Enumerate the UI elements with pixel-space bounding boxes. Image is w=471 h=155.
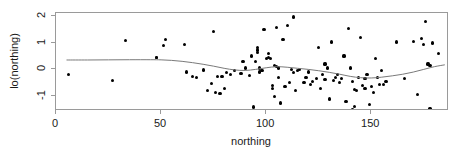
x-axis-tick <box>265 110 266 114</box>
x-axis-tick <box>160 110 161 114</box>
scatter-plot-figure: lo(northing) -1012 northing 050100150 <box>0 0 471 155</box>
x-axis-tick-label: 0 <box>52 117 58 129</box>
x-axis-tick <box>55 110 56 114</box>
x-axis-tick-label: 100 <box>256 117 274 129</box>
y-axis-label: lo(northing) <box>8 33 20 89</box>
x-axis-tick <box>370 110 371 114</box>
y-axis-tick-label: 2 <box>35 12 47 18</box>
smoother-curve-layer <box>56 13 447 109</box>
y-axis-tick-label: 0 <box>35 65 47 71</box>
x-axis-tick-label: 50 <box>154 117 166 129</box>
x-axis-tick-label: 150 <box>361 117 379 129</box>
y-axis-tick-label: 1 <box>35 38 47 44</box>
x-axis-label: northing <box>231 135 271 147</box>
smoother-curve <box>56 13 447 109</box>
smoother-path <box>67 60 445 78</box>
plot-area <box>55 12 448 110</box>
y-axis-tick-label: -1 <box>35 90 47 100</box>
